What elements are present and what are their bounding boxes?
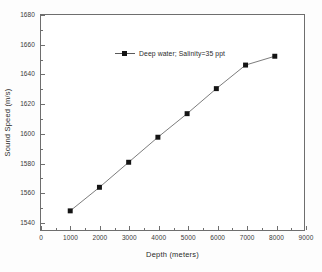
chart-figure: Sound Speed (m/s) Depth (meters) 1540156… (0, 0, 322, 272)
y-tick-label: 1600 (20, 131, 35, 138)
y-axis-title: Sound Speed (m/s) (2, 14, 13, 231)
data-point-marker[interactable] (68, 208, 73, 213)
data-point-marker[interactable] (272, 54, 277, 59)
y-tick-label: 1660 (20, 41, 35, 48)
x-tick-label: 4000 (151, 235, 166, 242)
y-tick-label: 1580 (20, 160, 35, 167)
x-axis-title: Depth (meters) (40, 250, 305, 259)
y-tick-label: 1540 (20, 220, 35, 227)
legend-marker-icon (115, 49, 135, 57)
x-tick-label: 9000 (299, 235, 314, 242)
data-point-marker[interactable] (214, 86, 219, 91)
y-tick-label: 1640 (20, 71, 35, 78)
x-tick-label: 5000 (181, 235, 196, 242)
chart-legend[interactable]: Deep water; Salinity=35 ppt (113, 48, 227, 58)
y-tick-label: 1560 (20, 190, 35, 197)
data-point-marker[interactable] (126, 160, 131, 165)
x-tick-label: 1000 (63, 235, 78, 242)
x-tick-label: 3000 (122, 235, 137, 242)
x-tick-label: 2000 (92, 235, 107, 242)
legend-entry-label: Deep water; Salinity=35 ppt (139, 50, 225, 57)
plot-frame: 15401560158016001620164016601680 0100020… (40, 14, 305, 231)
y-axis-title-text: Sound Speed (m/s) (3, 88, 12, 156)
plot-area: 15401560158016001620164016601680 0100020… (41, 15, 304, 230)
x-tick-label: 8000 (269, 235, 284, 242)
data-point-marker[interactable] (97, 185, 102, 190)
x-tick-label: 0 (39, 235, 43, 242)
x-tick-label: 6000 (210, 235, 225, 242)
data-point-marker[interactable] (243, 63, 248, 68)
x-tick-mark (306, 226, 307, 230)
data-point-marker[interactable] (185, 111, 190, 116)
data-point-marker[interactable] (155, 135, 160, 140)
y-tick-label: 1620 (20, 101, 35, 108)
x-tick-label: 7000 (240, 235, 255, 242)
y-tick-label: 1680 (20, 12, 35, 19)
